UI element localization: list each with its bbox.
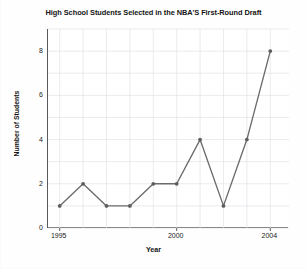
data-line (60, 51, 271, 206)
x-tick-label: 2000 (156, 232, 196, 239)
horizontal-gridlines (48, 29, 289, 228)
y-tick-label: 0 (29, 224, 43, 232)
y-axis-tick-labels: 02468 (26, 0, 43, 269)
line-chart-svg (48, 29, 289, 228)
chart-title: High School Students Selected in the NBA… (0, 8, 307, 17)
y-tick-label: 8 (29, 47, 43, 55)
x-tick-label: 1995 (39, 232, 79, 239)
x-axis-tick-marks (60, 228, 271, 231)
vertical-gridlines (60, 29, 271, 228)
y-tick-label: 6 (29, 91, 43, 99)
x-axis-title: Year (0, 245, 307, 254)
plot-area (47, 29, 288, 228)
x-tick-label: 2004 (249, 232, 289, 239)
chart-figure: High School Students Selected in the NBA… (0, 0, 307, 269)
y-axis-title: Number of Students (13, 79, 20, 169)
y-tick-label: 4 (29, 136, 43, 144)
y-tick-label: 2 (29, 180, 43, 188)
